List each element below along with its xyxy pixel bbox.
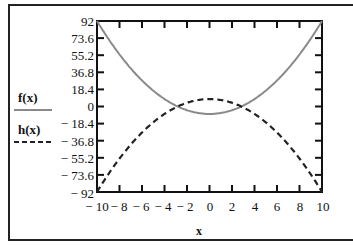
plot-box <box>97 21 322 192</box>
axis-ticks <box>97 21 322 192</box>
